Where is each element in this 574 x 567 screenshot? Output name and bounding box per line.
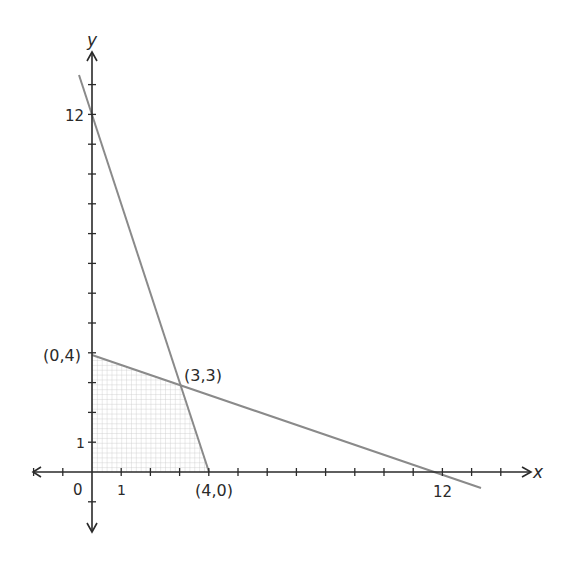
x-tick-label-12: 12: [433, 483, 452, 501]
y-tick-label-12: 12: [65, 107, 84, 125]
point-label-4-0: (4,0): [195, 481, 233, 500]
y-tick-label-1: 1: [76, 435, 85, 451]
point-label-3-3: (3,3): [184, 366, 222, 385]
x-tick-label-1: 1: [117, 482, 126, 498]
origin-label: 0: [73, 481, 83, 499]
point-label-0-4: (0,4): [43, 346, 81, 365]
linear-programming-graph: y x 0 1 12 1 12 (0,4) (3,3) (4,0): [0, 0, 574, 567]
y-axis-label: y: [86, 30, 98, 50]
x-axis-label: x: [532, 462, 544, 482]
